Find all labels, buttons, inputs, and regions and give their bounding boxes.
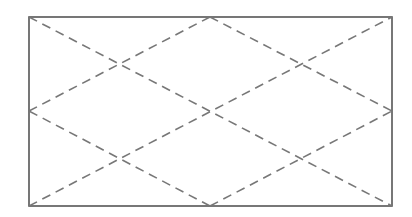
dashed-lines-group — [29, 17, 392, 206]
diagram-canvas — [0, 0, 412, 217]
lattice-diagram — [0, 0, 412, 217]
